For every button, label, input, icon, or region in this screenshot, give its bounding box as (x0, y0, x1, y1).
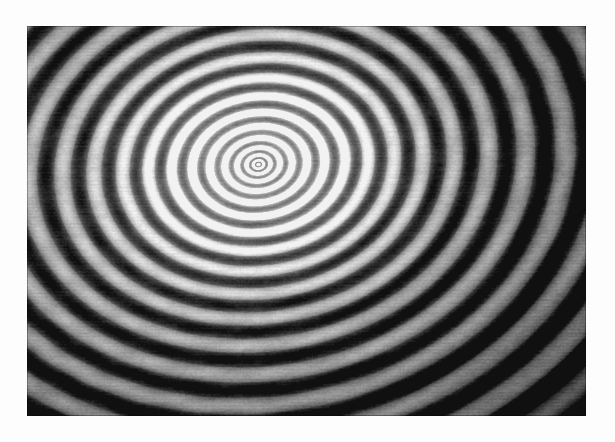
figure-root: Monochrome photographic plate showing co… (0, 0, 615, 442)
interference-pattern-canvas (27, 26, 586, 416)
photographic-plate (27, 26, 586, 416)
